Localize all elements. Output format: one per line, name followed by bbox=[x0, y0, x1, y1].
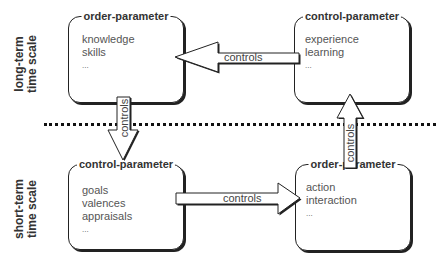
right-arrow-label: controls bbox=[344, 120, 356, 166]
left-arrow-label: controls bbox=[118, 95, 130, 141]
top-arrow-label: controls bbox=[224, 51, 263, 63]
arrows-layer bbox=[0, 0, 440, 260]
bottom-arrow-label: controls bbox=[223, 192, 262, 204]
